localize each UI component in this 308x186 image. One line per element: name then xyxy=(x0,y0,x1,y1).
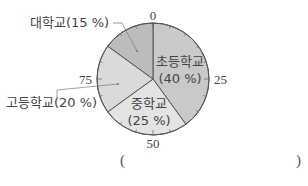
answer-close-paren: ) xyxy=(296,152,301,169)
pie-chart: 0 25 50 75 초등학교 (40 %) 중학교 (25 %) 대학교(15… xyxy=(0,0,308,186)
label-middle-pct: (25 %) xyxy=(127,113,170,128)
tick-label-0: 0 xyxy=(150,8,157,23)
label-middle-name: 중학교 xyxy=(131,96,167,111)
tick-label-50: 50 xyxy=(147,136,160,151)
label-elementary-name: 초등학교 xyxy=(156,54,204,69)
tick-label-25: 25 xyxy=(214,72,227,87)
label-elementary-pct: (40 %) xyxy=(158,71,201,86)
label-university: 대학교(15 %) xyxy=(30,15,109,30)
tick-label-75: 75 xyxy=(79,72,92,87)
label-high: 고등학교(20 %) xyxy=(6,95,97,110)
answer-open-paren: ( xyxy=(120,152,125,169)
